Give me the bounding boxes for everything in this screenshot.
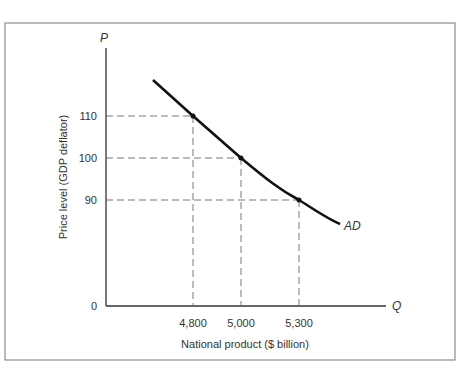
point-4800-110 (191, 114, 196, 119)
y-tick-90: 90 (85, 194, 97, 206)
y-tick-110: 110 (79, 110, 97, 122)
x-tick-4800: 4,800 (179, 317, 207, 329)
ad-label: AD (343, 219, 361, 233)
y-tick-100: 100 (79, 152, 97, 164)
x-tick-5000: 5,000 (227, 317, 255, 329)
y-axis-label: Price level (GDP deflator) (57, 115, 69, 240)
chart: P Q AD 110 100 90 0 4,800 5,000 5,300 Na… (0, 0, 476, 376)
point-5300-90 (297, 198, 302, 203)
x-axis-symbol: Q (392, 299, 401, 313)
point-5000-100 (239, 156, 244, 161)
x-tick-5300: 5,300 (285, 317, 313, 329)
chart-frame (5, 23, 455, 360)
x-axis-label: National product ($ billion) (181, 338, 309, 350)
y-axis-symbol: P (100, 31, 108, 45)
y-tick-0: 0 (91, 300, 97, 312)
